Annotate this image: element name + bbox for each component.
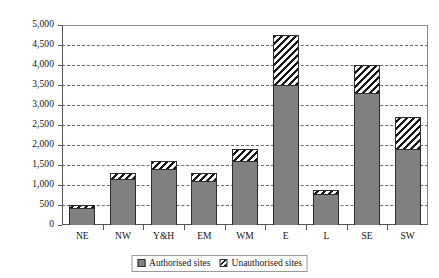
bars-layer xyxy=(62,25,428,225)
bar-segment-authorised[interactable] xyxy=(313,194,339,225)
chart-legend: Authorised sitesUnauthorised sites xyxy=(131,255,308,272)
bar-stack[interactable] xyxy=(395,117,421,225)
bar-segment-unauthorised[interactable] xyxy=(395,117,421,149)
bar-stack[interactable] xyxy=(110,173,136,225)
x-tick-mark xyxy=(265,225,266,230)
y-tick-label: 500 xyxy=(0,199,54,209)
stacked-bar-chart: 5,0004,5004,0003,5003,0002,5002,0001,500… xyxy=(0,0,439,278)
x-tick-mark xyxy=(306,225,307,230)
x-tick-label: Y&H xyxy=(153,231,174,242)
x-tick-label: EM xyxy=(197,231,211,242)
bar-slot xyxy=(184,25,225,225)
y-tick-label: 3,000 xyxy=(0,99,54,109)
bar-segment-unauthorised[interactable] xyxy=(354,65,380,93)
x-tick-mark xyxy=(143,225,144,230)
solid-grey-swatch xyxy=(137,259,145,267)
bar-slot xyxy=(387,25,428,225)
bar-slot xyxy=(62,25,103,225)
bar-stack[interactable] xyxy=(273,35,299,225)
x-tick-label: NW xyxy=(115,231,131,242)
bar-stack[interactable] xyxy=(232,149,258,225)
y-tick-label: 2,500 xyxy=(0,119,54,129)
bar-segment-unauthorised[interactable] xyxy=(191,173,217,181)
bar-stack[interactable] xyxy=(191,173,217,225)
x-tick-label: SE xyxy=(361,231,372,242)
y-tick-mark xyxy=(58,225,62,226)
legend-item-label: Authorised sites xyxy=(149,257,210,269)
bar-segment-authorised[interactable] xyxy=(232,161,258,225)
bar-slot xyxy=(347,25,388,225)
legend-item[interactable]: Unauthorised sites xyxy=(220,257,302,269)
bar-segment-authorised[interactable] xyxy=(69,208,95,225)
bar-stack[interactable] xyxy=(151,161,177,225)
hatched-swatch xyxy=(220,259,228,267)
x-tick-label: SW xyxy=(401,231,415,242)
bar-segment-unauthorised[interactable] xyxy=(151,161,177,169)
x-tick-mark xyxy=(347,225,348,230)
x-tick-label: E xyxy=(283,231,289,242)
bar-stack[interactable] xyxy=(354,65,380,225)
bar-stack[interactable] xyxy=(313,190,339,225)
bar-segment-unauthorised[interactable] xyxy=(232,149,258,161)
bar-slot xyxy=(103,25,144,225)
x-tick-label: NE xyxy=(76,231,89,242)
bar-slot xyxy=(265,25,306,225)
x-tick-label: L xyxy=(323,231,329,242)
legend-item[interactable]: Authorised sites xyxy=(137,257,210,269)
y-tick-label: 4,500 xyxy=(0,39,54,49)
bar-slot xyxy=(225,25,266,225)
bar-segment-authorised[interactable] xyxy=(395,149,421,225)
x-tick-label: WM xyxy=(236,231,253,242)
legend-item-label: Unauthorised sites xyxy=(232,257,302,269)
x-tick-mark xyxy=(387,225,388,230)
x-tick-mark xyxy=(103,225,104,230)
y-tick-label: 2,000 xyxy=(0,139,54,149)
bar-stack[interactable] xyxy=(69,205,95,225)
bar-segment-authorised[interactable] xyxy=(191,181,217,225)
x-tick-mark xyxy=(225,225,226,230)
y-tick-label: 4,000 xyxy=(0,59,54,69)
bar-segment-authorised[interactable] xyxy=(151,169,177,225)
bar-segment-unauthorised[interactable] xyxy=(273,35,299,85)
y-tick-label: 1,500 xyxy=(0,159,54,169)
bar-slot xyxy=(143,25,184,225)
bar-slot xyxy=(306,25,347,225)
bar-segment-authorised[interactable] xyxy=(273,85,299,225)
x-tick-mark xyxy=(184,225,185,230)
y-tick-label: 3,500 xyxy=(0,79,54,89)
y-tick-label: 0 xyxy=(0,219,54,229)
bar-segment-authorised[interactable] xyxy=(110,179,136,225)
y-tick-label: 5,000 xyxy=(0,19,54,29)
y-tick-label: 1,000 xyxy=(0,179,54,189)
bar-segment-authorised[interactable] xyxy=(354,93,380,225)
